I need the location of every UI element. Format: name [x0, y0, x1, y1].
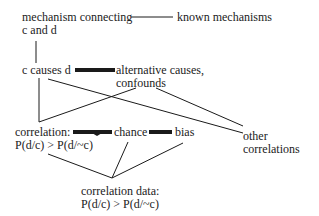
node-chance-label: chance	[114, 126, 147, 139]
node-correlation-line2: P(d/c) > P(d/~c)	[15, 139, 93, 152]
node-other-correlations: other correlations	[243, 130, 300, 156]
node-mechanism-line2: c and d	[22, 24, 132, 37]
node-known-label: known mechanisms	[177, 11, 272, 24]
edge-correlation-chance-notch	[92, 133, 102, 136]
node-data-line2: P(d/c) > P(d/~c)	[81, 198, 159, 211]
edge-bias-data	[112, 143, 183, 178]
node-c-causes-d: c causes d	[22, 64, 71, 77]
node-chance: chance	[114, 126, 147, 139]
node-bias: bias	[175, 126, 194, 139]
node-bias-label: bias	[175, 126, 194, 139]
node-alternative-line2: confounds	[116, 77, 204, 90]
edge-alternative-correlation	[39, 88, 136, 122]
node-correlation: correlation: P(d/c) > P(d/~c)	[15, 126, 93, 152]
node-correlation-data: correlation data: P(d/c) > P(d/~c)	[81, 185, 159, 211]
node-mechanism: mechanism connecting c and d	[22, 11, 132, 37]
node-alternative-causes: alternative causes, confounds	[116, 64, 204, 90]
edge-chance-data	[112, 142, 128, 178]
causal-diagram: mechanism connecting c and d known mecha…	[0, 0, 319, 216]
node-other-line2: correlations	[243, 143, 300, 156]
edge-correlation-data	[48, 154, 112, 178]
node-known-mechanisms: known mechanisms	[177, 11, 272, 24]
node-causes-label: c causes d	[22, 64, 71, 77]
edge-alternative-other	[156, 88, 243, 126]
